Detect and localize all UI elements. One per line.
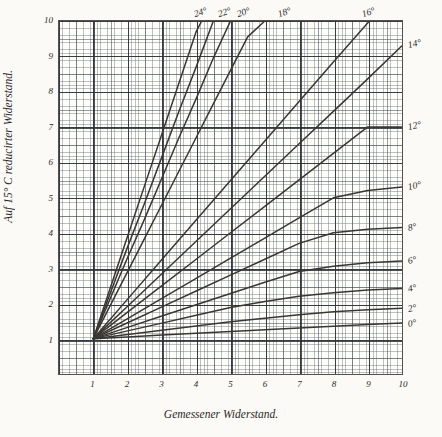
y-tick-5: 5 [49,193,54,203]
y-tick-6: 6 [49,157,54,167]
x-tick-8: 8 [332,379,337,389]
curve-label-16deg: 16° [361,5,377,19]
curve-14deg [93,46,402,339]
y-tick-10: 10 [44,15,53,25]
curve-lines [59,21,402,374]
curve-6deg [93,261,402,339]
curve-20deg [93,21,245,339]
y-tick-1: 1 [49,335,54,345]
curve-12deg [93,127,402,339]
y-tick-2: 2 [49,299,54,309]
y-tick-7: 7 [49,122,54,132]
curve-label-12deg: 12° [407,119,422,132]
curve-label-22deg: 22° [217,5,233,19]
curve-label-10deg: 10° [407,179,422,192]
x-tick-6: 6 [263,379,268,389]
x-tick-3: 3 [159,379,164,389]
x-tick-7: 7 [297,379,302,389]
curve-label-2deg: 2° [407,302,417,314]
curve-label-0deg: 0° [407,317,417,329]
curve-label-20deg: 20° [236,5,252,19]
x-tick-4: 4 [194,379,199,389]
curve-24deg [93,21,201,339]
chart-page: 12345678910 12345678910 24°22°20°18°16°1… [0,0,442,437]
curve-0deg [93,323,402,339]
curve-label-4deg: 4° [407,282,417,294]
y-tick-4: 4 [49,228,54,238]
curve-label-24deg: 24° [192,5,208,19]
y-axis-title: Auf 15° C reducirter Widerstand. [2,70,20,223]
y-tick-3: 3 [49,264,54,274]
curve-8deg [93,227,402,338]
plot-area [58,20,403,375]
x-tick-1: 1 [90,379,95,389]
x-tick-9: 9 [366,379,371,389]
x-tick-10: 10 [399,379,408,389]
x-tick-5: 5 [228,379,233,389]
y-tick-8: 8 [49,86,54,96]
curve-18deg [93,21,285,339]
x-tick-2: 2 [125,379,130,389]
curve-label-18deg: 18° [276,5,292,19]
curve-label-6deg: 6° [407,255,417,267]
curve-10deg [93,187,402,339]
y-tick-9: 9 [49,51,54,61]
curve-label-8deg: 8° [407,221,417,233]
curve-label-14deg: 14° [407,37,422,50]
x-axis-title: Gemessener Widerstand. [0,408,442,420]
